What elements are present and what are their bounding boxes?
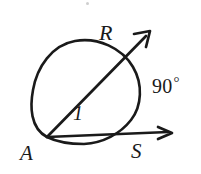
scan-speck bbox=[86, 2, 89, 5]
point-label-a: A bbox=[20, 143, 33, 164]
point-label-s: S bbox=[131, 141, 142, 162]
geometry-figure: R A S 1 90° bbox=[0, 0, 201, 174]
ray-as-line bbox=[47, 132, 168, 137]
arc-measure-label: 90° bbox=[152, 76, 179, 96]
arc-measure-value: 90 bbox=[152, 75, 172, 97]
degree-symbol: ° bbox=[173, 74, 179, 90]
point-label-r: R bbox=[99, 22, 112, 44]
circle-outline bbox=[31, 40, 139, 144]
angle-number-label: 1 bbox=[73, 103, 83, 123]
